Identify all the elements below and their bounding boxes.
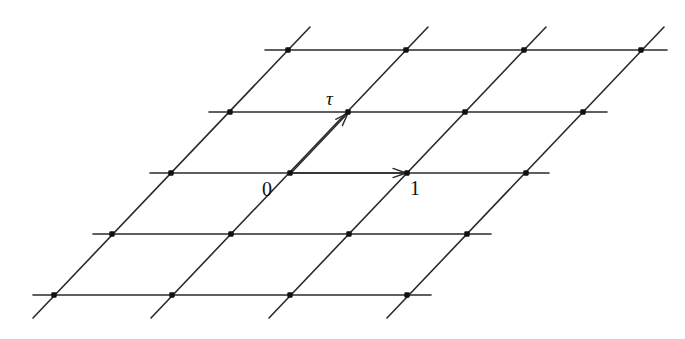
lattice-point [228,231,233,236]
lattice-point [51,292,56,297]
lattice-point [523,170,528,175]
lattice-label-origin: 0 [262,179,272,199]
lattice-point [638,47,643,52]
lattice-label-tau: τ [326,89,333,108]
vector-tau-shaft [292,113,348,172]
lattice-point [404,170,409,175]
lattice-canvas [0,0,685,339]
lattice-vectors-group [292,113,406,178]
lattice-point [404,292,409,297]
lattice-point [287,292,292,297]
lattice-point [403,47,408,52]
lattice-figure: 01τ [0,0,685,339]
lattice-point [464,231,469,236]
lattice-point [169,292,174,297]
vector-one [292,168,406,177]
lattice-label-one: 1 [410,178,420,198]
lattice-point [285,47,290,52]
lattice-point [521,47,526,52]
lattice-point [580,109,585,114]
lattice-point [345,109,350,114]
lattice-point [109,231,114,236]
lattice-point [168,170,173,175]
vector-tau [292,113,348,172]
lattice-point [462,109,467,114]
lattice-point [346,231,351,236]
lattice-point [227,109,232,114]
lattice-point [287,170,292,175]
